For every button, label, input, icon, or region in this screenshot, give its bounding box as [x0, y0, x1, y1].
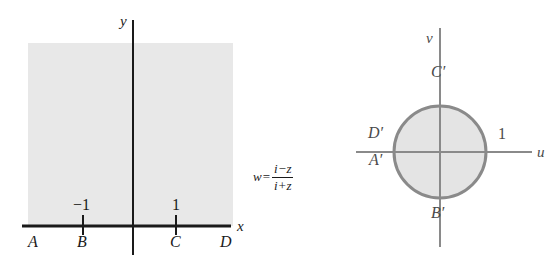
complex-mapping-figure: y x −1 1 A B C D w = i−z i+z v u: [0, 0, 554, 261]
formula-denominator: i+z: [272, 177, 293, 193]
u-axis-label: u: [537, 145, 545, 160]
v-axis-label: v: [426, 31, 433, 46]
formula-fraction: i−z i+z: [272, 162, 293, 192]
point-label-a: A: [28, 234, 38, 250]
tick-label-one: 1: [172, 197, 180, 213]
formula-numerator: i−z: [272, 162, 293, 177]
tick-label-one-w: 1: [498, 126, 506, 142]
point-label-b: B: [77, 234, 87, 250]
point-label-c: C: [170, 234, 181, 250]
x-axis-label: x: [237, 219, 244, 234]
formula-equals: =: [263, 169, 270, 185]
y-axis-label: y: [120, 14, 127, 29]
point-label-d-prime: D′: [368, 125, 383, 141]
point-label-a-prime: A′: [369, 152, 382, 168]
upper-half-plane-region: [28, 43, 233, 226]
point-label-d: D: [220, 234, 232, 250]
w-plane-panel: v u 1 C′ D′ A′ B′: [340, 0, 554, 261]
point-label-c-prime: C′: [431, 64, 445, 80]
tick-label-minus-one: −1: [73, 197, 90, 213]
z-plane-graphic: [0, 0, 260, 261]
formula-variable: w: [253, 169, 262, 185]
point-label-b-prime: B′: [431, 205, 444, 221]
mapping-formula: w = i−z i+z: [253, 162, 293, 192]
z-plane-panel: y x −1 1 A B C D: [0, 0, 260, 261]
